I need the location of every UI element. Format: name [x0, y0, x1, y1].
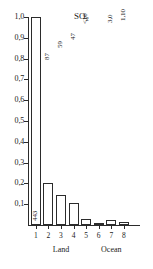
- x-axis-tick: [48, 225, 49, 229]
- bar-value-label: 3,0: [107, 14, 114, 22]
- y-axis-label: 0,8: [2, 55, 24, 63]
- x-axis-tick: [36, 225, 37, 229]
- x-axis-label: 1: [31, 231, 41, 240]
- bar: [106, 220, 116, 225]
- y-axis-label: 0,9: [2, 34, 24, 42]
- bar-value-label: 59: [57, 41, 64, 48]
- y-axis-label-wrap: 0,2: [0, 179, 24, 187]
- y-axis-label: 0,2: [2, 179, 24, 187]
- y-axis-label: 0,5: [2, 117, 24, 125]
- group-label-ocean: Ocean: [91, 245, 131, 254]
- x-axis-label: 8: [119, 231, 129, 240]
- x-axis-tick: [124, 225, 125, 229]
- y-axis-label-wrap: 1,0: [0, 13, 24, 21]
- bar: [56, 195, 66, 225]
- y-axis-label-wrap: 0,7: [0, 75, 24, 83]
- y-axis-label: 0,1: [2, 200, 24, 208]
- plot-area: 443875947<103,01,10: [28, 17, 140, 225]
- y-axis-label: 0,3: [2, 159, 24, 167]
- bar-value-label: 47: [70, 33, 77, 40]
- y-axis-label: 0,4: [2, 138, 24, 146]
- bar-value-label: <10: [82, 13, 89, 24]
- x-axis-tick: [86, 225, 87, 229]
- x-axis-tick: [74, 225, 75, 229]
- so2-bar-chart: SO2 0,10,20,30,40,50,60,70,80,91,0 12345…: [0, 0, 153, 269]
- bar-value-label: 87: [44, 53, 51, 60]
- x-axis-tick: [99, 225, 100, 229]
- x-axis-label: 2: [43, 231, 53, 240]
- y-axis-label: 1,0: [2, 13, 24, 21]
- x-axis-label: 7: [106, 231, 116, 240]
- bar-value-label: 1,10: [120, 9, 127, 21]
- y-axis-label-wrap: 0,3: [0, 159, 24, 167]
- x-axis-tick: [111, 225, 112, 229]
- y-axis-label: 0,7: [2, 75, 24, 83]
- bar: [43, 183, 53, 225]
- x-axis-label: 6: [94, 231, 104, 240]
- y-axis-label: 0,6: [2, 96, 24, 104]
- bar: [81, 219, 91, 225]
- x-axis-label: 3: [56, 231, 66, 240]
- bar: [119, 222, 129, 225]
- group-label-land: Land: [41, 245, 81, 254]
- y-axis-label-wrap: 0,4: [0, 138, 24, 146]
- y-axis-label-wrap: 0,9: [0, 34, 24, 42]
- y-axis-label-wrap: 0,5: [0, 117, 24, 125]
- bar: [69, 203, 79, 225]
- x-axis-label: 5: [81, 231, 91, 240]
- y-axis-label-wrap: 0,6: [0, 96, 24, 104]
- bar: [94, 223, 104, 225]
- bar: [31, 17, 41, 225]
- x-axis-label: 4: [69, 231, 79, 240]
- bar-value-label: 443: [32, 211, 39, 221]
- y-axis-label-wrap: 0,8: [0, 55, 24, 63]
- x-axis-tick: [61, 225, 62, 229]
- y-axis-label-wrap: 0,1: [0, 200, 24, 208]
